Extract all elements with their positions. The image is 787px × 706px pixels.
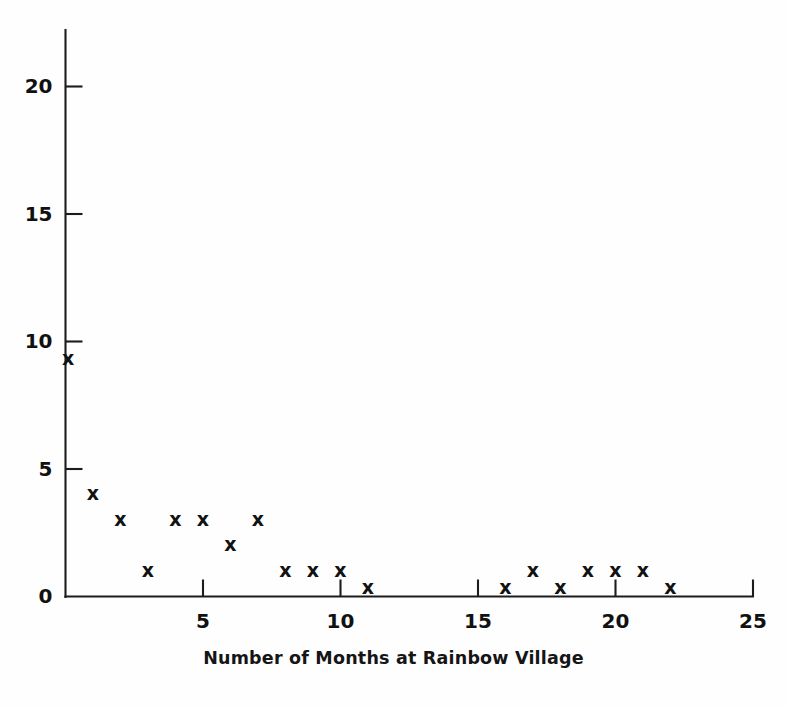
x-tick-label: 5 — [196, 609, 210, 633]
data-point-markers: xxxxxxxxxxxxxxxxxxx — [62, 347, 677, 598]
data-point-marker: x — [307, 559, 319, 581]
y-tick-label: 20 — [25, 74, 53, 98]
scatter-plot-figure: 05101520 510152025 xxxxxxxxxxxxxxxxxxx N… — [0, 0, 787, 706]
data-point-marker: x — [252, 508, 264, 530]
y-axis-ticks: 05101520 — [25, 74, 83, 608]
x-tick-label: 20 — [602, 609, 630, 633]
data-point-marker: x — [87, 482, 99, 504]
data-point-marker: x — [169, 508, 181, 530]
y-tick-label: 15 — [25, 202, 53, 226]
data-point-marker: x — [279, 559, 291, 581]
y-tick-label: 0 — [39, 584, 53, 608]
data-point-marker: x — [334, 559, 346, 581]
data-point-marker: x — [114, 508, 126, 530]
x-axis-label: Number of Months at Rainbow Village — [0, 648, 787, 668]
data-point-marker: x — [527, 559, 539, 581]
data-point-marker: x — [362, 576, 374, 598]
data-point-marker: x — [554, 576, 566, 598]
data-point-marker: x — [582, 559, 594, 581]
x-tick-label: 10 — [327, 609, 355, 633]
data-point-marker: x — [142, 559, 154, 581]
data-point-marker: x — [224, 533, 236, 555]
x-tick-label: 25 — [739, 609, 767, 633]
y-tick-label: 10 — [25, 329, 53, 353]
data-point-marker: x — [609, 559, 621, 581]
data-point-marker: x — [637, 559, 649, 581]
x-axis-ticks: 510152025 — [196, 580, 767, 633]
y-tick-label: 5 — [39, 457, 53, 481]
plot-canvas: 05101520 510152025 xxxxxxxxxxxxxxxxxxx — [0, 0, 787, 706]
x-tick-label: 15 — [464, 609, 492, 633]
data-point-marker: x — [499, 576, 511, 598]
data-point-marker: x — [664, 576, 676, 598]
data-point-marker: x — [62, 347, 74, 369]
data-point-marker: x — [197, 508, 209, 530]
